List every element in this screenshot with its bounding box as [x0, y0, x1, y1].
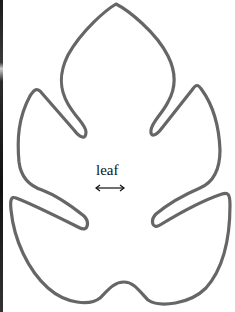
leaf-outline: [0, 0, 235, 312]
double-headed-arrow-icon: [94, 183, 126, 193]
leaf-label: leaf: [96, 162, 118, 179]
